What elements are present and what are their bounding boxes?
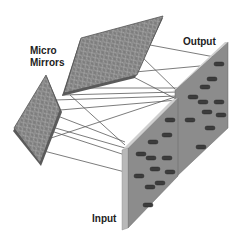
- micro-mirrors-label-line2: Mirrors: [30, 57, 65, 68]
- input-label: Input: [92, 213, 117, 224]
- input-panel: [122, 98, 178, 230]
- output-label: Output: [183, 36, 216, 47]
- micro-mirrors-label-line1: Micro: [30, 45, 57, 56]
- micro-mirror-array-left: [13, 75, 62, 166]
- output-panel: [172, 42, 228, 178]
- optical-switch-diagram: Micro Mirrors Output Input: [0, 0, 245, 241]
